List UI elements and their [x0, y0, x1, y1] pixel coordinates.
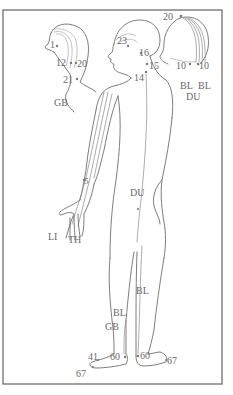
point-23 — [127, 45, 129, 47]
label-point-14: 14 — [134, 72, 144, 83]
head-main-view: 23 16 15 14 — [108, 20, 160, 83]
label-bl-10-right: 10 — [199, 60, 209, 71]
point-bl-60-right — [137, 355, 139, 357]
body-torso: DU — [96, 56, 173, 258]
label-meridian-du-torso: DU — [130, 187, 145, 198]
point-gb-1 — [56, 45, 58, 47]
point-du-lower — [137, 208, 139, 210]
head-side-view: 1 12 20 21 GB — [45, 24, 96, 112]
label-point-15: 15 — [149, 60, 159, 71]
label-point-gb-41: 41 — [88, 351, 98, 362]
legs: BL BL GB 41 60 60 67 67 — [76, 246, 177, 379]
label-meridian-bl-left: BL — [180, 80, 193, 91]
point-gb-21 — [76, 78, 78, 80]
label-point-23: 23 — [117, 35, 127, 46]
label-point-gb-67: 67 — [76, 368, 86, 379]
point-bl-10-left — [189, 63, 191, 65]
point-gb-67-left — [92, 366, 94, 368]
label-meridian-bl-right: BL — [198, 80, 211, 91]
head-back-view: 20 10 10 BL BL DU — [160, 11, 211, 102]
point-15 — [146, 63, 148, 65]
label-gb-12: 12 — [56, 57, 66, 68]
label-gb-20: 20 — [77, 58, 87, 69]
label-meridian-gb-head: GB — [54, 97, 68, 108]
label-meridian-bl-front-leg: BL — [113, 307, 126, 318]
label-point-bl-60-left: 60 — [110, 351, 120, 362]
label-meridian-bl-back-leg: BL — [136, 285, 149, 296]
label-bl-10-left: 10 — [176, 60, 186, 71]
label-gb-21: 21 — [63, 74, 73, 85]
point-du-20 — [180, 15, 183, 18]
label-meridian-du-head: DU — [186, 91, 201, 102]
label-meridian-gb-leg: GB — [105, 321, 119, 332]
label-meridian-th: TH — [68, 234, 81, 245]
label-gb-1: 1 — [50, 39, 55, 50]
point-bl-60-left — [124, 356, 126, 358]
label-point-bl-67: 67 — [167, 355, 177, 366]
label-du-20: 20 — [163, 11, 173, 22]
point-14 — [145, 71, 147, 73]
label-meridian-li: LI — [48, 231, 57, 242]
arm: 5 LI TH — [48, 92, 118, 245]
point-gb-12 — [70, 62, 72, 64]
label-point-16: 16 — [139, 47, 149, 58]
label-point-th-5: 5 — [84, 176, 89, 186]
label-point-bl-60-right: 60 — [140, 350, 150, 361]
meridian-diagram: 1 12 20 21 GB 23 16 15 14 20 10 10 BL — [0, 0, 233, 395]
